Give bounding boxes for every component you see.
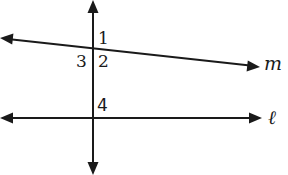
line-l — [0, 113, 262, 124]
angle-label-2: 2 — [98, 51, 109, 71]
angle-label-3: 3 — [76, 51, 87, 71]
arrowhead-up-icon — [88, 0, 99, 13]
line-label-l: ℓ — [268, 106, 276, 128]
line-m — [0, 34, 260, 72]
geometry-diagram: 1 2 3 4 m ℓ — [0, 0, 288, 175]
line-label-m: m — [264, 52, 282, 74]
transversal-line — [88, 0, 99, 175]
arrowhead-right-icon — [249, 113, 262, 124]
arrowhead-right-icon — [247, 60, 260, 71]
angle-label-1: 1 — [98, 28, 109, 48]
arrowhead-down-icon — [88, 162, 99, 175]
angle-label-4: 4 — [97, 95, 108, 115]
arrowhead-left-icon — [0, 113, 13, 124]
arrowhead-left-icon — [0, 34, 13, 45]
